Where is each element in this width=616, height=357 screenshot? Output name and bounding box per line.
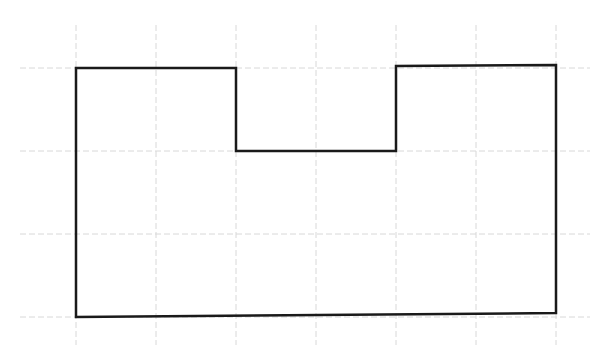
grid-diagram-svg — [0, 0, 616, 357]
grid-lines — [20, 25, 590, 345]
grid-diagram — [0, 0, 616, 357]
